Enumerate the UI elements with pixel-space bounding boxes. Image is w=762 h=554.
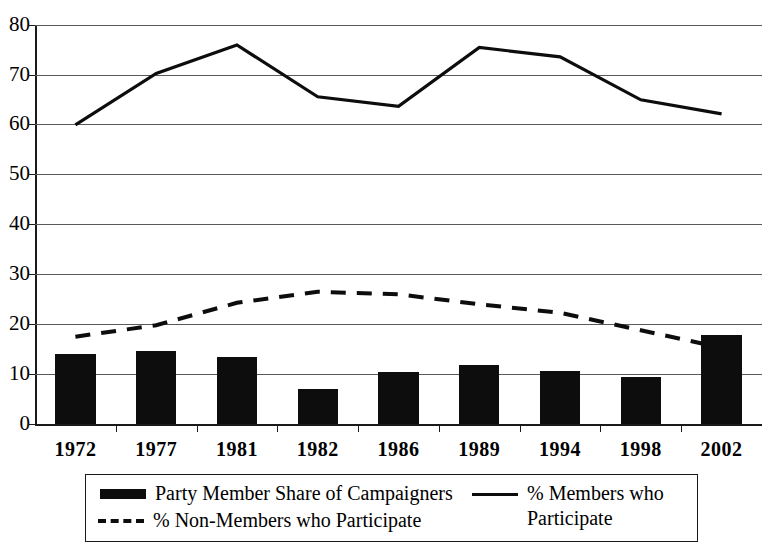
bar-swatch-icon bbox=[100, 489, 146, 499]
solid-line-swatch-icon bbox=[472, 493, 518, 496]
x-tick-mark-1998 bbox=[681, 424, 682, 432]
x-tick-label-1972: 1972 bbox=[35, 437, 116, 461]
line-bar-combo-chart: 80 70 60 50 40 30 20 10 0 bbox=[0, 0, 762, 554]
y-tick-label-80: 80 bbox=[0, 14, 30, 35]
y-tick-label-20: 20 bbox=[0, 313, 30, 334]
legend-label-party-member-share: Party Member Share of Campaigners bbox=[155, 481, 453, 506]
x-tick-mark-1972 bbox=[116, 424, 117, 432]
x-tick-label-1998: 1998 bbox=[600, 437, 681, 461]
x-tick-label-1981: 1981 bbox=[197, 437, 278, 461]
legend-label-non-members: % Non-Members who Participate bbox=[153, 508, 421, 533]
x-tick-mark-1982 bbox=[358, 424, 359, 432]
x-axis-line bbox=[35, 424, 762, 426]
y-tick-label-60: 60 bbox=[0, 113, 30, 134]
y-tick-label-0: 0 bbox=[0, 413, 30, 434]
legend-entry-members: % Members who Participate bbox=[472, 481, 664, 531]
x-tick-mark-1986 bbox=[439, 424, 440, 432]
x-tick-label-2002: 2002 bbox=[681, 437, 762, 461]
x-tick-label-1989: 1989 bbox=[439, 437, 520, 461]
y-tick-label-70: 70 bbox=[0, 64, 30, 85]
legend-entry-party-member-share: Party Member Share of Campaigners bbox=[100, 481, 453, 506]
x-tick-mark-1981 bbox=[277, 424, 278, 432]
legend-label-members: % Members who Participate bbox=[527, 481, 664, 531]
y-tick-label-30: 30 bbox=[0, 263, 30, 284]
x-tick-mark-1989 bbox=[520, 424, 521, 432]
x-axis-labels: 197219771981198219861989199419982002 bbox=[35, 437, 762, 467]
legend-entry-non-members: % Non-Members who Participate bbox=[98, 508, 421, 533]
y-axis-labels: 80 70 60 50 40 30 20 10 0 bbox=[0, 0, 30, 554]
x-tick-label-1982: 1982 bbox=[277, 437, 358, 461]
x-tick-label-1986: 1986 bbox=[358, 437, 439, 461]
line-series-non-members-who-participate bbox=[35, 25, 762, 424]
x-tick-label-1994: 1994 bbox=[520, 437, 601, 461]
plot-area bbox=[35, 25, 762, 424]
y-tick-label-40: 40 bbox=[0, 213, 30, 234]
x-tick-mark-1977 bbox=[197, 424, 198, 432]
chart-legend: Party Member Share of Campaigners % Non-… bbox=[85, 474, 698, 542]
y-tick-label-50: 50 bbox=[0, 163, 30, 184]
dashed-line-swatch-icon bbox=[98, 519, 144, 523]
x-tick-mark-1994 bbox=[600, 424, 601, 432]
x-tick-label-1977: 1977 bbox=[116, 437, 197, 461]
y-tick-label-10: 10 bbox=[0, 363, 30, 384]
